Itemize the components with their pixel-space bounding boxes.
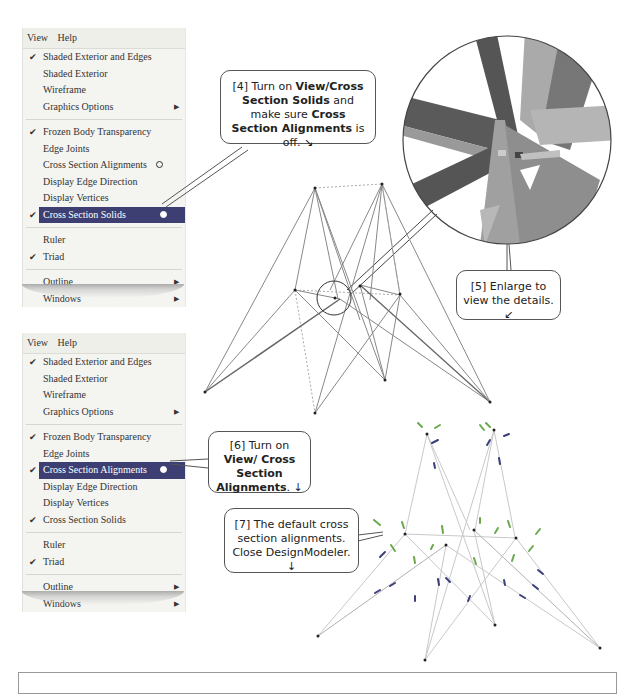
callout-step-4: [4] Turn on View/Cross Section Solids an… xyxy=(220,70,376,144)
callout-step-7: [7] The default cross section alignments… xyxy=(224,508,359,573)
callout-step-6: [6] Turn on View/ Cross Section Alignmen… xyxy=(208,431,311,493)
bottom-note-box xyxy=(18,672,617,694)
tower-wireframe-alignments xyxy=(318,430,600,660)
callout-step-5: [5] Enlarge to view the details. ↙ xyxy=(456,270,561,320)
alignment-markers xyxy=(374,423,543,601)
